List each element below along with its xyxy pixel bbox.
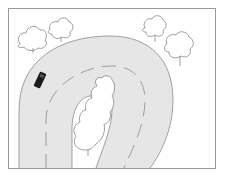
hairpin-road-illustration: [0, 0, 227, 175]
